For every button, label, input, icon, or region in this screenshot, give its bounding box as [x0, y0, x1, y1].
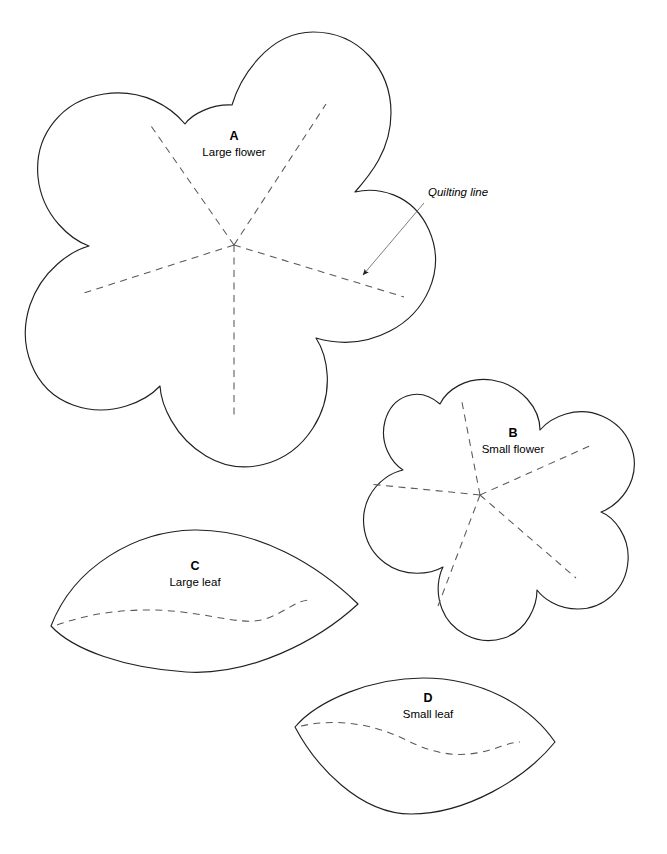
piece-b-name: Small flower: [482, 443, 545, 455]
piece-d-small-leaf[interactable]: D Small leaf: [295, 678, 555, 814]
piece-a-outline[interactable]: [25, 32, 435, 467]
pattern-sheet-canvas: A Large flower Quilting line B Small flo…: [0, 0, 667, 854]
piece-c-outline[interactable]: [51, 530, 358, 672]
piece-a-large-flower[interactable]: A Large flower: [25, 32, 435, 467]
piece-d-name: Small leaf: [403, 708, 454, 720]
piece-a-name: Large flower: [202, 146, 265, 158]
piece-b-outline[interactable]: [364, 379, 635, 640]
piece-a-letter: A: [229, 129, 238, 143]
piece-b-letter: B: [508, 426, 517, 440]
pattern-template-drawing: A Large flower Quilting line B Small flo…: [0, 0, 667, 854]
piece-c-letter: C: [190, 559, 199, 573]
piece-d-letter: D: [423, 691, 432, 705]
piece-c-large-leaf[interactable]: C Large leaf: [51, 530, 358, 672]
piece-c-name: Large leaf: [169, 576, 221, 588]
quilting-line-label: Quilting line: [428, 186, 488, 198]
piece-b-small-flower[interactable]: B Small flower: [364, 379, 635, 640]
